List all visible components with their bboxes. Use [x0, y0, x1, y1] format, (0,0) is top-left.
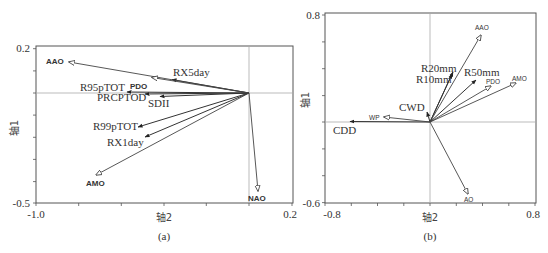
vector-nao-a [249, 93, 258, 191]
x-max-label-a: 0.2 [283, 208, 297, 220]
label-sdii-a: SDII [148, 97, 170, 109]
label-ao-b: AO [464, 196, 473, 203]
label-rx1day-a: RX1day [107, 136, 144, 148]
label-r99ptot-a: R99pTOT [93, 120, 138, 132]
label-aao-a: AAO [46, 57, 64, 66]
plot-frame-b [325, 13, 536, 203]
explanatory-vectors-b [384, 35, 516, 194]
panel-label-b: (b) [424, 230, 437, 243]
label-cwd-b: CWD [399, 101, 425, 113]
y-axis-title-a: 轴1 [8, 120, 20, 136]
vector-r50mm-b [430, 80, 476, 122]
vector-pdo-a [152, 78, 249, 94]
x-axis-title-a: 轴2 [156, 211, 172, 223]
label-aao-b: AAO [475, 24, 489, 31]
label-prcptod-a: PRCPTOD [97, 91, 146, 103]
x-min-label-a: -1.0 [27, 208, 45, 220]
y-max-label-b: 0.8 [306, 9, 320, 21]
y-max-label-a: 0.2 [16, 42, 30, 54]
plot-frame-a [36, 46, 293, 203]
label-amo-a: AMO [86, 179, 105, 188]
label-wp-b: WP [369, 114, 379, 121]
y-min-label-b: -0.6 [303, 197, 321, 209]
label-amo-b: AMO [512, 75, 527, 82]
x-axis-title-b: 轴2 [422, 211, 438, 223]
vector-pdo-b [430, 86, 491, 122]
label-cdd-b: CDD [333, 124, 356, 136]
vector-cdd-b [350, 122, 430, 123]
vector-wp-b [384, 117, 430, 122]
label-r10mm-b: R10mm [416, 73, 452, 85]
x-max-label-b: 0.8 [526, 208, 540, 220]
label-pdo-a: PDO [130, 82, 147, 91]
panel-label-a: (a) [158, 230, 171, 243]
vector-amo-a [96, 93, 249, 175]
label-pdo-b: PDO [486, 78, 500, 85]
vector-ao-b [430, 122, 468, 194]
label-rx5day-a: RX5day [173, 66, 210, 78]
figure: 0.2 -0.5 -1.0 0.2 轴2 轴1 (a) AAO RX5day R… [0, 0, 548, 253]
vector-cwd-b [427, 112, 430, 122]
panel-b: 0.8 -0.6 -0.8 0.8 轴2 轴1 (b) AAO R20mm R1… [299, 9, 540, 243]
x-min-label-b: -0.8 [323, 208, 341, 220]
label-nao-a: NAO [248, 194, 266, 203]
y-axis-title-b: 轴1 [299, 92, 311, 108]
panel-a: 0.2 -0.5 -1.0 0.2 轴2 轴1 (a) AAO RX5day R… [8, 42, 297, 243]
label-r50mm-b: R50mm [464, 66, 500, 78]
vector-amo-b [430, 83, 516, 122]
